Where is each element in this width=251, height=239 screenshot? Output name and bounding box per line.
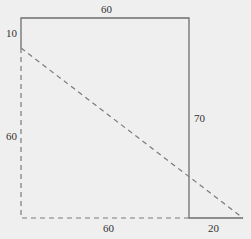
label-right: 70	[194, 113, 205, 124]
label-bottom: 60	[103, 223, 114, 234]
label-top-left: 10	[6, 28, 17, 39]
label-top: 60	[101, 4, 112, 15]
label-bottom-right: 20	[208, 223, 219, 234]
diagram-canvas: 60 10 60 70 60 20	[0, 0, 251, 239]
dashed-diagonal	[21, 48, 243, 218]
solid-path	[21, 18, 243, 218]
path-diagram	[0, 0, 251, 239]
dashed-left-bottom	[21, 48, 189, 218]
label-left: 60	[6, 131, 17, 142]
